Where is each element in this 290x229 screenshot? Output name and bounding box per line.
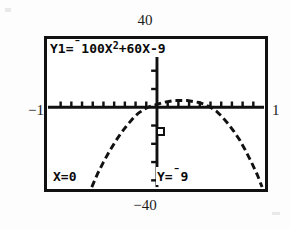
window-xmax-label: 1 xyxy=(272,103,290,118)
trace-y-label: Y= xyxy=(157,169,173,184)
equation-readout: Y1=¯100X2+60X-9 xyxy=(50,40,168,57)
equation-remainder: +60X-9 xyxy=(119,42,166,55)
window-ymin-label: −40 xyxy=(0,198,290,213)
window-ymax-label: 40 xyxy=(0,13,290,28)
equation-variable: X xyxy=(105,42,113,55)
plot-area[interactable]: Y1=¯100X2+60X-9 xyxy=(47,39,265,189)
calculator-screenshot: 40 −1 1 −40 Y1=¯100X2+60X-9 xyxy=(0,0,290,229)
equation-leading-coefficient: 100 xyxy=(81,42,104,55)
trace-x-label: X=0 xyxy=(53,169,76,184)
trace-cursor[interactable] xyxy=(156,127,165,136)
trace-x-readout: X=0 xyxy=(52,167,77,185)
equation-exponent: 2 xyxy=(113,41,119,51)
calculator-screen[interactable]: Y1=¯100X2+60X-9 xyxy=(44,36,268,192)
trace-y-readout: Y=¯9 xyxy=(156,167,189,185)
scan-artifact xyxy=(5,8,11,12)
scan-artifact xyxy=(272,212,280,215)
trace-y-value: 9 xyxy=(180,169,188,184)
equation-name: Y1= xyxy=(50,42,73,55)
equation-negative-sign: ¯ xyxy=(73,39,81,52)
window-xmin-label: −1 xyxy=(14,103,44,118)
trace-y-negative-sign: ¯ xyxy=(173,166,181,181)
